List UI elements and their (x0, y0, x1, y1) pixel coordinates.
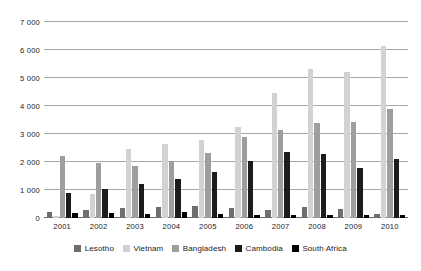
bar-group (262, 22, 298, 218)
bar (265, 210, 270, 218)
x-axis-tick-label: 2005 (190, 222, 226, 231)
bar (66, 193, 71, 218)
legend-swatch-icon (172, 245, 179, 252)
bar (145, 214, 150, 218)
bar-group (299, 22, 335, 218)
bar (302, 207, 307, 218)
bar (156, 207, 161, 218)
legend-label: Bangladesh (183, 244, 226, 253)
bar-groups (44, 22, 408, 218)
x-axis-tick-label: 2001 (44, 222, 80, 231)
bar (387, 109, 392, 218)
bar (90, 194, 95, 218)
x-axis-tick-label: 2006 (226, 222, 262, 231)
bar-group (335, 22, 371, 218)
bar (338, 209, 343, 218)
bar (102, 189, 107, 218)
bar (308, 69, 313, 218)
bar-chart: 01 0002 0003 0004 0005 0006 0007 000 200… (0, 0, 421, 271)
bar (175, 179, 180, 218)
bar (394, 159, 399, 218)
legend-swatch-icon (123, 245, 130, 252)
bar (192, 206, 197, 218)
bar-group (226, 22, 262, 218)
bar (229, 208, 234, 218)
y-axis-tick-label: 0 (2, 214, 40, 223)
legend-label: Cambodia (246, 244, 283, 253)
bar (47, 212, 52, 218)
bar (248, 161, 253, 218)
bar (182, 212, 187, 218)
bar (96, 163, 101, 218)
x-axis-tick-label: 2004 (153, 222, 189, 231)
legend-swatch-icon (292, 245, 299, 252)
y-axis-tick-label: 7 000 (2, 18, 40, 27)
bar (291, 215, 296, 218)
bar (254, 215, 259, 218)
bar (344, 72, 349, 218)
bar-group (190, 22, 226, 218)
legend-swatch-icon (74, 245, 81, 252)
bar (132, 166, 137, 218)
bar (374, 214, 379, 218)
y-axis-tick-label: 2 000 (2, 158, 40, 167)
legend-label: Lesotho (85, 244, 114, 253)
bar-group (44, 22, 80, 218)
bar (60, 156, 65, 218)
y-axis-tick-label: 6 000 (2, 46, 40, 55)
bar (364, 215, 369, 218)
x-axis-tick-label: 2003 (117, 222, 153, 231)
y-axis-tick-label: 3 000 (2, 130, 40, 139)
bar (205, 153, 210, 218)
legend-label: Vietnam (133, 244, 163, 253)
bar (327, 215, 332, 218)
bar (199, 140, 204, 218)
x-axis-tick-label: 2009 (335, 222, 371, 231)
bar (126, 149, 131, 218)
legend-label: South Africa (302, 244, 346, 253)
bar (400, 215, 405, 218)
bar (284, 152, 289, 218)
plot-area (44, 22, 408, 218)
bar (169, 161, 174, 218)
legend-item[interactable]: Vietnam (123, 244, 163, 253)
legend-swatch-icon (235, 245, 242, 252)
bar (321, 154, 326, 218)
x-axis-labels: 2001200220032004200520062007200820092010 (44, 222, 408, 231)
chart-legend: LesothoVietnamBangladeshCambodiaSouth Af… (0, 244, 421, 253)
bar (162, 144, 167, 218)
bar (139, 184, 144, 218)
bar (72, 213, 77, 218)
bar (83, 210, 88, 218)
bar (235, 127, 240, 218)
bar (242, 137, 247, 218)
y-axis-tick-label: 5 000 (2, 74, 40, 83)
legend-item[interactable]: Bangladesh (172, 244, 226, 253)
y-axis-tick-label: 4 000 (2, 102, 40, 111)
x-axis-tick-label: 2008 (299, 222, 335, 231)
bar-group (117, 22, 153, 218)
bar (357, 168, 362, 218)
bar-group (80, 22, 116, 218)
x-axis-tick-label: 2007 (262, 222, 298, 231)
bar-group (372, 22, 408, 218)
bar (218, 214, 223, 218)
bar (120, 208, 125, 218)
bar (278, 130, 283, 218)
bar (351, 122, 356, 218)
bar (212, 172, 217, 218)
x-axis-tick-label: 2010 (372, 222, 408, 231)
bar-group (153, 22, 189, 218)
bar (53, 216, 58, 218)
x-axis-tick-label: 2002 (80, 222, 116, 231)
bar (272, 93, 277, 218)
legend-item[interactable]: Lesotho (74, 244, 114, 253)
legend-item[interactable]: South Africa (292, 244, 347, 253)
bar (381, 46, 386, 218)
legend-item[interactable]: Cambodia (235, 244, 283, 253)
bar (314, 123, 319, 218)
bar (109, 213, 114, 218)
y-axis-tick-label: 1 000 (2, 186, 40, 195)
